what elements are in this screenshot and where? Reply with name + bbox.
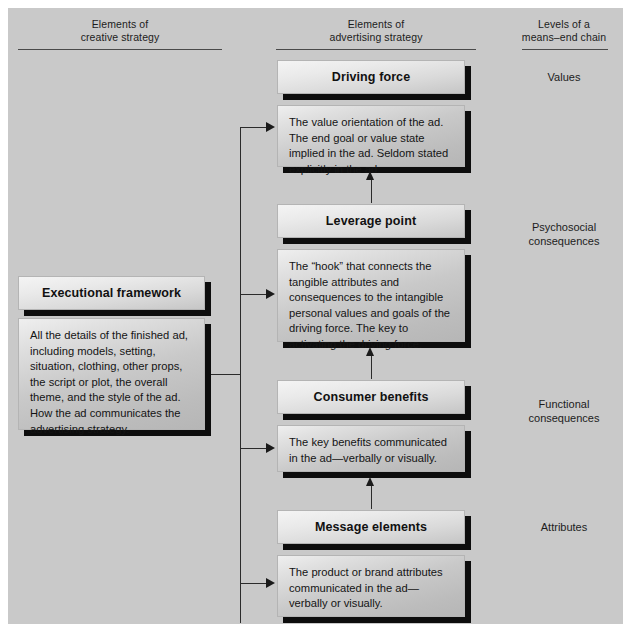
- connector-arrow-up-leverage-to-driving: [366, 171, 374, 180]
- column-rule-creative: [18, 49, 222, 50]
- column-header-creative-line1: Elements of: [18, 18, 222, 31]
- level-label-functional-text: Functional consequences: [529, 398, 600, 424]
- level-label-values-text: Values: [548, 71, 581, 83]
- box-title-label: Message elements: [315, 520, 427, 534]
- level-label-values: Values: [504, 70, 624, 84]
- diagram-canvas: Elements of creative strategy Elements o…: [0, 0, 631, 641]
- box-face: Executional framework: [18, 276, 205, 310]
- box-leverage-point-description[interactable]: The “hook” that connects the tangible at…: [277, 249, 465, 342]
- connector-arrow-up-message-to-consumer: [366, 477, 374, 486]
- box-description-label: The “hook” that connects the tangible at…: [289, 259, 453, 353]
- box-driving-force-description[interactable]: The value orientation of the ad. The end…: [277, 105, 465, 167]
- box-title-label: Leverage point: [326, 214, 416, 228]
- connector-up-consumer-to-leverage: [371, 355, 372, 379]
- box-driving-force[interactable]: Driving force: [277, 60, 465, 94]
- column-header-levels-line1: Levels of a: [506, 18, 622, 31]
- connector-arrow-leverage-point: [266, 289, 275, 299]
- level-label-psychosocial: Psychosocial consequences: [504, 206, 624, 248]
- connector-arrow-message-elements: [266, 578, 275, 588]
- column-header-levels-line2: means–end chain: [506, 31, 622, 44]
- level-label-attributes: Attributes: [504, 520, 624, 534]
- connector-up-leverage-to-driving: [371, 179, 372, 203]
- column-header-advertising-line2: advertising strategy: [276, 31, 476, 44]
- box-title-label: Driving force: [332, 70, 410, 84]
- box-face: The product or brand attributes communic…: [277, 555, 465, 617]
- level-label-psychosocial-text: Psychosocial consequences: [529, 221, 600, 247]
- box-executional-framework[interactable]: Executional framework: [18, 276, 205, 310]
- box-message-elements[interactable]: Message elements: [277, 510, 465, 544]
- column-header-advertising-line1: Elements of: [276, 18, 476, 31]
- column-header-levels: Levels of a means–end chain: [506, 18, 622, 44]
- box-description-label: The value orientation of the ad. The end…: [289, 115, 453, 177]
- box-face: Driving force: [277, 60, 465, 94]
- box-face: The key benefits communicated in the ad—…: [277, 425, 465, 472]
- box-leverage-point[interactable]: Leverage point: [277, 204, 465, 238]
- box-description-label: The key benefits communicated in the ad—…: [289, 435, 453, 466]
- diagram-plate: Elements of creative strategy Elements o…: [8, 8, 623, 624]
- box-face: All the details of the finished ad, incl…: [18, 318, 205, 430]
- box-description-label: All the details of the finished ad, incl…: [30, 328, 193, 437]
- box-consumer-benefits[interactable]: Consumer benefits: [277, 380, 465, 414]
- column-rule-levels: [522, 49, 608, 50]
- connector-arrow-driving-force: [266, 122, 275, 132]
- connector-branch-consumer-benefits: [240, 448, 268, 449]
- connector-arrow-up-consumer-to-leverage: [366, 347, 374, 356]
- box-face: Leverage point: [277, 204, 465, 238]
- connector-trunk-vertical: [240, 127, 241, 623]
- box-title-label: Consumer benefits: [314, 390, 429, 404]
- column-rule-advertising: [276, 49, 476, 50]
- connector-branch-leverage-point: [240, 294, 268, 295]
- box-executional-framework-description[interactable]: All the details of the finished ad, incl…: [18, 318, 205, 430]
- connector-arrow-consumer-benefits: [266, 443, 275, 453]
- connector-branch-driving-force: [240, 127, 268, 128]
- connector-stub-from-executional: [211, 374, 241, 375]
- column-header-creative: Elements of creative strategy: [18, 18, 222, 44]
- box-face: The value orientation of the ad. The end…: [277, 105, 465, 167]
- connector-up-message-to-consumer: [371, 485, 372, 509]
- box-face: The “hook” that connects the tangible at…: [277, 249, 465, 342]
- column-header-advertising: Elements of advertising strategy: [276, 18, 476, 44]
- column-header-creative-line2: creative strategy: [18, 31, 222, 44]
- box-description-label: The product or brand attributes communic…: [289, 565, 453, 612]
- box-message-elements-description[interactable]: The product or brand attributes communic…: [277, 555, 465, 617]
- box-face: Message elements: [277, 510, 465, 544]
- level-label-functional: Functional consequences: [504, 383, 624, 425]
- box-title-label: Executional framework: [42, 286, 181, 300]
- box-face: Consumer benefits: [277, 380, 465, 414]
- level-label-attributes-text: Attributes: [541, 521, 587, 533]
- connector-branch-message-elements: [240, 583, 268, 584]
- box-consumer-benefits-description[interactable]: The key benefits communicated in the ad—…: [277, 425, 465, 472]
